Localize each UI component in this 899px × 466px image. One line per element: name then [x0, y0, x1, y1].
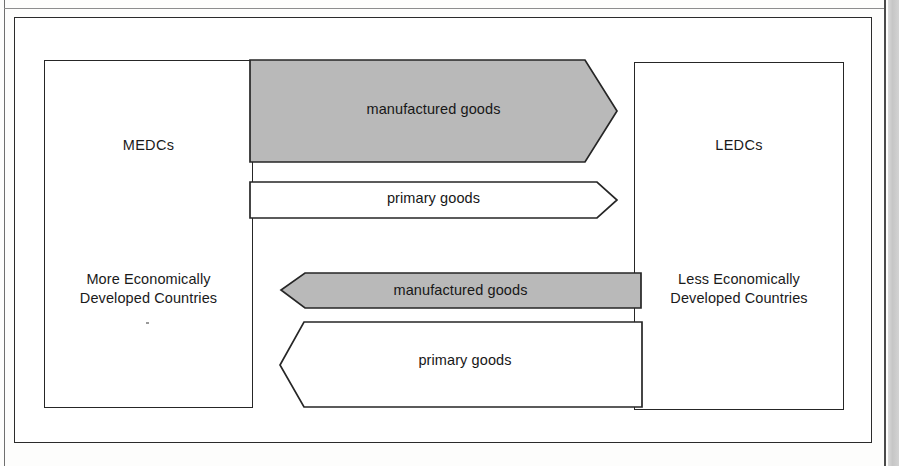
node-medcs-full-name-line1: More Economically: [45, 270, 252, 289]
flow-arrow-manufactured-goods-to-medcs[interactable]: [279, 272, 643, 310]
flow-arrow-primary-goods-to-ledcs[interactable]: [250, 181, 620, 221]
page-frame-left-rule: [4, 0, 5, 466]
node-medcs-full-name: More Economically Developed Countries: [45, 270, 252, 308]
page-frame-top-rule: [4, 8, 884, 9]
flow-arrow-manufactured-goods-to-ledcs[interactable]: [250, 59, 620, 164]
flow-arrow-primary-goods-to-medcs[interactable]: [278, 321, 644, 409]
scanned-page: MEDCs More Economically Developed Countr…: [0, 0, 899, 466]
node-ledcs-abbreviation: LEDCs: [635, 137, 843, 153]
flow-arrow-primary-goods-to-ledcs-shape: [250, 182, 617, 218]
flow-arrow-manufactured-goods-to-medcs-shape: [281, 273, 641, 308]
node-ledcs-full-name: Less Economically Developed Countries: [635, 270, 843, 308]
flow-arrow-manufactured-goods-to-ledcs-shape: [250, 60, 617, 162]
node-ledcs-full-name-line1: Less Economically: [635, 270, 843, 289]
node-ledcs-full-name-line2: Developed Countries: [635, 289, 843, 308]
scan-artifact-speck: [146, 322, 149, 324]
node-medcs[interactable]: MEDCs More Economically Developed Countr…: [44, 60, 253, 408]
page-edge-strip: [888, 0, 899, 466]
node-medcs-full-name-line2: Developed Countries: [45, 289, 252, 308]
node-ledcs[interactable]: LEDCs Less Economically Developed Countr…: [634, 62, 844, 410]
page-edge-rule: [884, 0, 886, 466]
node-medcs-abbreviation: MEDCs: [45, 137, 252, 153]
flow-arrow-primary-goods-to-medcs-shape: [280, 322, 642, 407]
